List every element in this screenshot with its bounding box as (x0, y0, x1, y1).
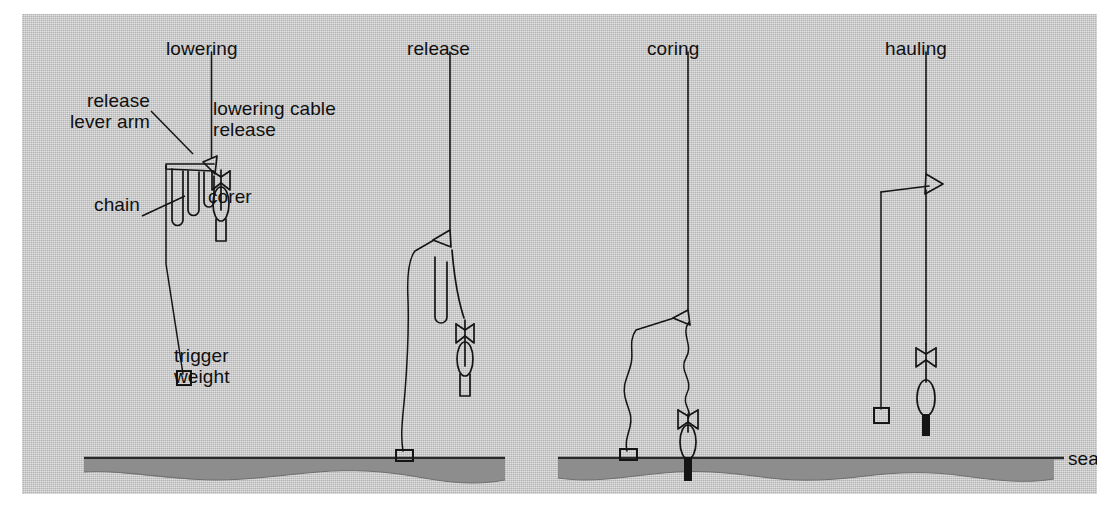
callout-trigger-weight-line2: weight (174, 366, 230, 387)
sea-bottom-right (558, 458, 1054, 481)
panel-title-lowering: lowering (166, 38, 238, 59)
hauling-trigger-weight (874, 408, 889, 423)
release-corer (452, 250, 474, 396)
diagram-panel: lowering release coring hauling release … (22, 14, 1097, 494)
callout-lowering-cable-release-line1: lowering cable (213, 98, 336, 119)
hauling-lever-arm (881, 186, 929, 192)
coring-slack-cable (684, 322, 690, 419)
callout-trigger-weight-line1: trigger (174, 345, 229, 366)
corer-sequence-illustration (22, 14, 1097, 494)
panel-title-coring: coring (647, 38, 699, 59)
coring-trigger-wire (624, 318, 674, 451)
release-chain (435, 257, 447, 323)
release-hook-tripped (433, 230, 451, 247)
hauling-corer (916, 344, 936, 436)
sea-bottom-label: sea bottom (1068, 448, 1097, 469)
panel-title-release: release (407, 38, 470, 59)
callout-corer: corer (208, 186, 252, 207)
coring-release-hook (673, 310, 690, 325)
callout-chain: chain (22, 194, 140, 215)
callout-lowering-cable-release-line2: release (213, 119, 276, 140)
panel-hauling-art (874, 52, 1064, 458)
callout-release-lever-arm-line2: lever arm (22, 111, 150, 132)
hauling-release-hook (925, 174, 943, 194)
figure-root: lowering release coring hauling release … (0, 0, 1119, 521)
panel-title-hauling: hauling (885, 38, 947, 59)
sea-bottom-left (84, 458, 505, 483)
release-trigger-wire (402, 240, 434, 451)
callout-release-lever-arm-line1: release (22, 90, 150, 111)
panel-release-art (396, 52, 474, 461)
trigger-weight-line (166, 166, 183, 374)
leader-chain (142, 196, 185, 216)
panel-coring-art (620, 52, 698, 481)
leader-release-lever-arm (151, 111, 193, 154)
